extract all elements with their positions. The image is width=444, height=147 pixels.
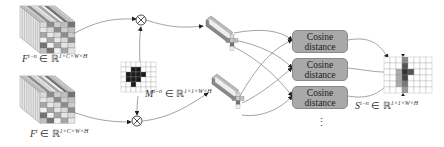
cube-cell (68, 38, 75, 43)
similarity-cell (414, 63, 420, 69)
ellipsis: ⋮ (316, 120, 327, 124)
mask-cell-off (126, 62, 131, 67)
mask-cell-on (131, 67, 136, 72)
cube-cell (61, 27, 68, 32)
label-mask: Mt−n ∈ ℝ1×1×W×H (145, 88, 212, 99)
arrow-cube2-to-mult2 (73, 112, 131, 122)
similarity-cell (390, 87, 396, 93)
cube-cell (54, 43, 61, 48)
similarity-cell (414, 81, 420, 87)
cube-cell (61, 113, 68, 118)
similarity-cell (408, 87, 414, 93)
similarity-cell (384, 81, 390, 87)
similarity-cell (420, 87, 426, 93)
similarity-cell (420, 69, 426, 75)
mask-cell-on (126, 72, 131, 77)
similarity-cell (408, 63, 414, 69)
similarity-cell (426, 69, 432, 75)
arrow-cube1-to-mult1 (73, 19, 136, 34)
cube-cell (47, 108, 54, 113)
cube-cell (47, 22, 54, 27)
cube-cell (68, 113, 75, 118)
cube-cell (40, 43, 47, 48)
cube-cell (54, 97, 61, 102)
mask-cell-on (141, 72, 146, 77)
similarity-cell (390, 75, 396, 81)
cube-cell (54, 113, 61, 118)
similarity-cell (390, 63, 396, 69)
mask-cell-off (131, 87, 136, 92)
similarity-cell (396, 75, 402, 81)
cube-cell (61, 38, 68, 43)
mask-cell-on (126, 77, 131, 82)
similarity-cell (426, 87, 432, 93)
similarity-cell (390, 81, 396, 87)
cube-cell (61, 118, 68, 123)
bar-section-cell (236, 101, 240, 105)
similarity-cell (408, 81, 414, 87)
similarity-cell (396, 81, 402, 87)
mask-cell-on (136, 72, 141, 77)
mask-cell-off (121, 87, 126, 92)
similarity-cell (396, 57, 402, 63)
similarity-cell (402, 81, 408, 87)
feature-bar-bottom (212, 74, 244, 109)
mask-cell-on (131, 72, 136, 77)
mask-cell-off (151, 67, 156, 72)
mask-cell-on (131, 82, 136, 87)
cube-cell (40, 32, 47, 37)
arrow-head (401, 93, 405, 96)
cube-cell (47, 27, 54, 32)
cube-cell (47, 102, 54, 107)
similarity-cell (384, 63, 390, 69)
cube-cell (47, 38, 54, 43)
cube-cell (68, 22, 75, 27)
similarity-cell (402, 87, 408, 93)
bar-section-cell (234, 39, 238, 43)
bar-section-cell (230, 39, 234, 43)
bar-section-cell (226, 39, 230, 43)
similarity-cell (402, 57, 408, 63)
bar-section-cell (230, 47, 234, 51)
bar-section-cell (236, 105, 240, 109)
similarity-grid (384, 54, 432, 96)
mask-cell-off (151, 77, 156, 82)
cube-cell (40, 92, 47, 97)
multiply-operator-bottom (132, 116, 142, 126)
cube-cell (47, 97, 54, 102)
label-output: St−n ∈ ℝ1×1×W×H (355, 100, 418, 111)
cube-cell (61, 108, 68, 113)
feature-cube-curr (20, 76, 75, 123)
similarity-cell (384, 69, 390, 75)
similarity-cell (426, 63, 432, 69)
similarity-cell (408, 57, 414, 63)
cube-cell (40, 108, 47, 113)
cube-cell (40, 97, 47, 102)
mask-cell-off (151, 72, 156, 77)
mask-cell-off (151, 62, 156, 67)
cube-cell (40, 113, 47, 118)
similarity-cell (402, 63, 408, 69)
mask-cell-off (121, 62, 126, 67)
cube-cell (54, 92, 61, 97)
multiply-operator-top (136, 15, 146, 25)
cube-cell (54, 27, 61, 32)
mask-cell-off (151, 82, 156, 87)
cube-cell (47, 113, 54, 118)
bar-section-cell (236, 93, 240, 97)
mask-cell-on (131, 77, 136, 82)
similarity-cell (426, 57, 432, 63)
cube-cell (61, 102, 68, 107)
mask-cell-off (146, 62, 151, 67)
arrow-head (401, 54, 405, 57)
cube-cell (68, 118, 75, 123)
mask-cell-off (131, 62, 136, 67)
cosine-distance-box-2: Cosine distance (292, 58, 348, 81)
cube-cell (47, 118, 54, 123)
feature-cube-prev (20, 6, 75, 53)
bar-section-cell (230, 35, 234, 39)
similarity-cell (402, 75, 408, 81)
cube-cell (47, 92, 54, 97)
cube-cell (68, 27, 75, 32)
cube-cell (54, 108, 61, 113)
